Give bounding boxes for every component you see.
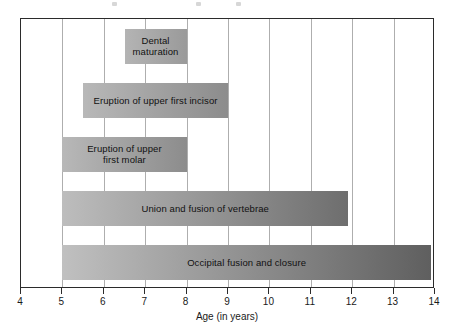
x-tick-label-12: 12 xyxy=(346,296,357,307)
x-tick-label-14: 14 xyxy=(428,296,439,307)
x-tick-label-13: 13 xyxy=(387,296,398,307)
bar-label: Union and fusion of vertebrae xyxy=(138,203,272,214)
x-tick-label-5: 5 xyxy=(59,296,65,307)
x-tick-11 xyxy=(310,288,311,294)
x-tick-10 xyxy=(268,288,269,294)
x-tick-12 xyxy=(351,288,352,294)
bar-label: Occipital fusion and closure xyxy=(184,257,309,268)
x-tick-label-9: 9 xyxy=(224,296,230,307)
x-tick-8 xyxy=(186,288,187,294)
x-axis-title: Age (in years) xyxy=(0,311,454,322)
x-tick-label-6: 6 xyxy=(100,296,106,307)
bar-label: Dental maturation xyxy=(130,35,182,57)
x-tick-label-4: 4 xyxy=(17,296,23,307)
bar-label: Eruption of upper first incisor xyxy=(91,95,221,106)
bar-1: Dental maturation xyxy=(125,29,187,64)
x-tick-6 xyxy=(103,288,104,294)
x-tick-14 xyxy=(434,288,435,294)
x-tick-label-10: 10 xyxy=(263,296,274,307)
x-tick-4 xyxy=(20,288,21,294)
x-tick-7 xyxy=(144,288,145,294)
x-tick-9 xyxy=(227,288,228,294)
bar-5: Occipital fusion and closure xyxy=(62,245,430,280)
x-tick-13 xyxy=(393,288,394,294)
clipped-caption-artifact xyxy=(0,0,454,10)
bar-2: Eruption of upper first incisor xyxy=(83,83,228,118)
x-tick-label-11: 11 xyxy=(305,296,315,307)
age-indicators-bar-chart: Dental maturationEruption of upper first… xyxy=(0,0,454,327)
bar-3: Eruption of upper first molar xyxy=(62,137,186,172)
x-tick-label-8: 8 xyxy=(183,296,189,307)
plot-area: Dental maturationEruption of upper first… xyxy=(20,18,434,288)
bar-label: Eruption of upper first molar xyxy=(84,143,165,165)
x-tick-5 xyxy=(61,288,62,294)
bar-4: Union and fusion of vertebrae xyxy=(62,191,348,226)
x-tick-label-7: 7 xyxy=(141,296,147,307)
